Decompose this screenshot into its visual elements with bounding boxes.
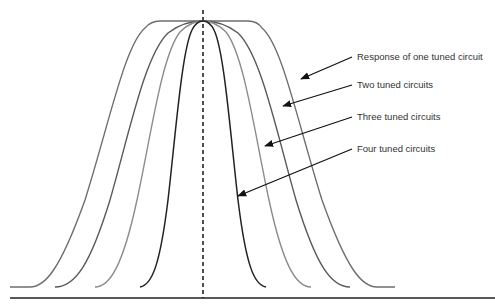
label-four-tuned-circuits: Four tuned circuits [357, 144, 435, 154]
label-two-tuned-circuits: Two tuned circuits [357, 80, 433, 90]
arrow-four [238, 149, 352, 196]
label-three-tuned-circuits: Three tuned circuits [357, 112, 440, 122]
tuned-circuits-diagram [0, 0, 495, 308]
label-one-tuned-circuit: Response of one tuned circuit [357, 52, 483, 62]
arrow-two [283, 85, 352, 106]
arrow-one [301, 57, 352, 79]
